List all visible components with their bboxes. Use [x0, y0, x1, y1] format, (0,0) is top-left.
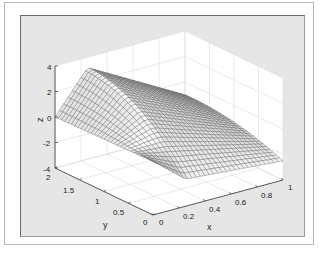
x-tick-1: 1	[288, 183, 293, 192]
x-tick-0.6: 0.6	[235, 198, 247, 207]
y-tick-0.5: 0.5	[113, 208, 125, 217]
z-tick-neg2: -2	[43, 139, 51, 148]
x-tick-0.2: 0.2	[183, 212, 195, 221]
z-tick-0: 0	[47, 114, 52, 123]
y-tick-0: 0	[143, 218, 148, 227]
y-tick-1.5: 1.5	[63, 186, 75, 195]
x-tick-0.8: 0.8	[261, 191, 273, 200]
x-tick-0: 0	[159, 218, 164, 227]
x-axis-label: x	[207, 222, 212, 232]
z-tick-4: 4	[47, 63, 52, 72]
z-tick-2: 2	[47, 88, 52, 97]
y-axis-label: y	[103, 220, 108, 230]
z-axis-label: z	[35, 117, 45, 122]
x-tick-0.4: 0.4	[209, 205, 221, 214]
y-tick-1: 1	[95, 197, 100, 206]
surface-plot: 4 2 0 -2 -4 2 1.5 1 0.5 0 0 0.2 0.4 0.6 …	[0, 0, 327, 255]
y-tick-2: 2	[46, 173, 51, 182]
